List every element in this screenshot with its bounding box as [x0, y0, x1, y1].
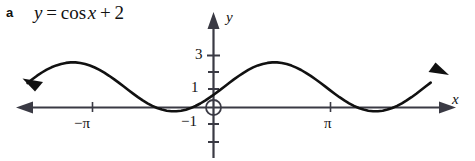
- curve-left-arrow-icon: [23, 79, 44, 92]
- graph-figure: a y = cos x + 2 y x 3 1: [0, 0, 475, 161]
- y-tick-label-1: 1: [191, 80, 199, 95]
- x-tick-label-pi: π: [324, 116, 332, 131]
- cosine-curve: [28, 62, 431, 111]
- y-axis-label: y: [226, 10, 233, 25]
- y-tick-label-3: 3: [195, 47, 203, 62]
- x-tick-label-neg-pi: −π: [74, 116, 90, 131]
- curve-right-arrow-icon: [429, 63, 450, 76]
- x-axis-left-arrow-icon: [16, 102, 33, 114]
- y-tick-label-neg-1: −1: [181, 114, 197, 129]
- coordinate-plane: [0, 0, 475, 161]
- x-axis-label: x: [452, 92, 459, 107]
- y-axis-up-arrow-icon: [208, 12, 220, 29]
